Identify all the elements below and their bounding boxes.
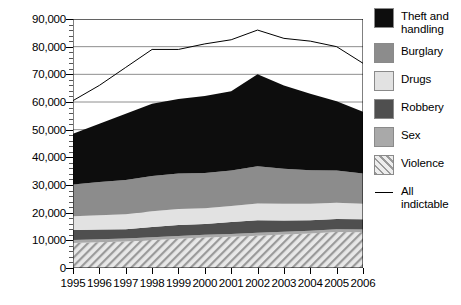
x-axis-tick-label: 2002: [245, 277, 270, 289]
chart-figure: 010,00020,00030,00040,00050,00060,00070,…: [0, 0, 461, 305]
legend-item-label-line1: Theft and: [401, 10, 449, 22]
area-bands: [73, 74, 363, 268]
legend-item[interactable]: Robbery: [374, 99, 461, 119]
area-band-theft-and-handling: [73, 74, 363, 184]
legend-item[interactable]: Theft andhandling: [374, 8, 461, 35]
x-axis-tick-label: 1998: [140, 277, 165, 289]
x-axis-tick: [231, 268, 232, 274]
legend-item-label-line1: Burglary: [401, 45, 443, 57]
y-axis-tick: [66, 130, 73, 131]
x-axis-tick-label: 2003: [272, 277, 297, 289]
x-axis-tick: [258, 268, 259, 274]
x-axis-tick-label: 2001: [219, 277, 244, 289]
x-axis-tick: [99, 268, 100, 274]
legend-item[interactable]: Violence: [374, 155, 461, 175]
x-axis-tick: [73, 268, 74, 274]
legend-color-swatch: [374, 71, 394, 91]
x-axis-tick: [152, 268, 153, 274]
legend-item-label: Sex: [401, 127, 421, 142]
y-axis-tick-label: 50,000: [0, 124, 66, 136]
x-axis-tick-label: 1995: [61, 277, 86, 289]
legend-item[interactable]: Sex: [374, 127, 461, 147]
x-axis-tickmarks: [0, 268, 461, 275]
x-axis-tick-label: 1999: [166, 277, 191, 289]
y-axis-tick: [66, 19, 73, 20]
x-axis-tick: [178, 268, 179, 274]
y-axis-tick: [66, 240, 73, 241]
x-axis-tick: [363, 268, 364, 274]
legend-item-label-line1: Robbery: [401, 101, 444, 113]
stacked-area-chart: [73, 19, 363, 268]
y-axis-tick: [66, 102, 73, 103]
x-axis-tick: [337, 268, 338, 274]
x-axis-tick: [284, 268, 285, 274]
y-axis-tickmarks: [66, 0, 73, 305]
y-axis: 010,00020,00030,00040,00050,00060,00070,…: [0, 0, 66, 305]
y-axis-tick-label: 60,000: [0, 96, 66, 108]
legend-item-label-line2: handling: [401, 23, 444, 35]
y-axis-tick-label: 10,000: [0, 234, 66, 246]
legend-item-label: Robbery: [401, 99, 444, 114]
y-axis-tick-label: 80,000: [0, 41, 66, 53]
x-axis-tick-label: 1997: [113, 277, 138, 289]
x-axis-tick-label: 2004: [298, 277, 323, 289]
x-axis-tick: [126, 268, 127, 274]
plot-area: [73, 19, 363, 268]
legend-item[interactable]: Drugs: [374, 71, 461, 91]
y-axis-tick-label: 70,000: [0, 68, 66, 80]
legend-color-swatch: [374, 43, 394, 63]
x-axis-tick-label: 2005: [324, 277, 349, 289]
legend-color-swatch: [374, 155, 394, 175]
y-axis-tick: [66, 213, 73, 214]
x-axis: 1995199619971998199920002001200220032004…: [0, 277, 461, 297]
x-axis-tick: [310, 268, 311, 274]
legend-item-label-line2: indictable: [401, 198, 449, 210]
legend-item-label-line1: Violence: [401, 157, 444, 169]
legend-item-label-line1: Sex: [401, 129, 421, 141]
legend-item[interactable]: Allindictable: [374, 183, 461, 210]
x-axis-tick-label: 2006: [351, 277, 376, 289]
legend-item-label-line1: All: [401, 185, 413, 197]
legend-color-swatch: [374, 99, 394, 119]
legend-item-label: Theft andhandling: [401, 8, 449, 35]
y-axis-tick: [66, 74, 73, 75]
line-all-indictable: [73, 30, 363, 101]
y-axis-tick-label: 40,000: [0, 151, 66, 163]
y-axis-tick-label: 20,000: [0, 207, 66, 219]
legend-item-label: Drugs: [401, 71, 431, 86]
y-axis-tick: [66, 47, 73, 48]
chart-legend: Theft andhandlingBurglaryDrugsRobberySex…: [374, 8, 461, 218]
y-axis-tick: [66, 157, 73, 158]
legend-line-swatch: [374, 183, 394, 203]
legend-color-swatch: [374, 8, 394, 28]
all-indictable-line: [73, 30, 363, 101]
legend-color-swatch: [374, 127, 394, 147]
legend-item-label: Burglary: [401, 43, 443, 58]
y-axis-tick-label: 30,000: [0, 179, 66, 191]
legend-item-label: Allindictable: [401, 183, 449, 210]
x-axis-tick: [205, 268, 206, 274]
legend-item-label-line1: Drugs: [401, 73, 431, 85]
x-axis-tick-label: 1996: [87, 277, 112, 289]
legend-item[interactable]: Burglary: [374, 43, 461, 63]
y-axis-tick-label: 90,000: [0, 13, 66, 25]
legend-item-label: Violence: [401, 155, 444, 170]
x-axis-tick-label: 2000: [192, 277, 217, 289]
y-axis-tick: [66, 185, 73, 186]
